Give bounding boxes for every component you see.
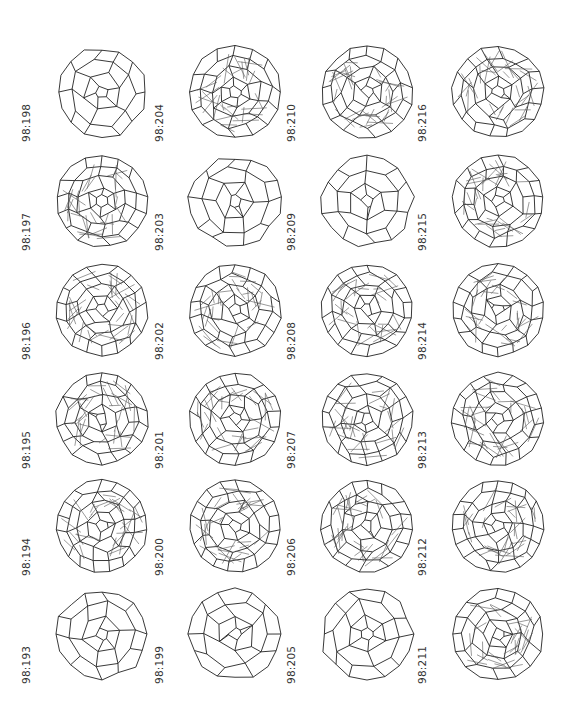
fullerene-cage-diagram [446,260,550,360]
isomer-label: 98:205 [285,646,297,684]
isomer-cell: 98:212 [418,472,548,582]
isomer-label: 98:209 [285,213,297,251]
fullerene-cage-diagram [50,42,154,142]
cage-outline [321,265,412,356]
isomer-cell: 98:216 [418,38,548,148]
isomer-label: 98:211 [416,646,428,684]
cage-outline [56,479,146,572]
isomer-label: 98:199 [153,646,165,684]
fullerene-cage-diagram [183,369,287,469]
cage-outline [452,47,544,137]
fullerene-cage-diagram [315,42,419,142]
isomer-label: 98:206 [285,538,297,576]
isomer-label: 98:214 [416,322,428,360]
isomer-cell: 98:195 [22,365,152,475]
fullerene-cage-diagram [50,369,154,469]
isomer-label: 98:208 [285,322,297,360]
fullerene-cage-diagram [183,42,287,142]
isomer-cell: 98:209 [287,147,417,257]
isomer-label: 98:213 [416,431,428,469]
fullerene-cage-diagram [183,476,287,576]
isomer-cell: 98:210 [287,38,417,148]
cage-outline [321,480,413,572]
fullerene-cage-diagram [315,151,419,251]
isomer-label: 98:197 [20,213,32,251]
isomer-label: 98:198 [20,104,32,142]
fullerene-cage-diagram [315,369,419,469]
isomer-label: 98:201 [153,431,165,469]
fullerene-cage-diagram [50,151,154,251]
isomer-cell: 98:211 [418,580,548,690]
fullerene-cage-diagram [315,260,419,360]
isomer-cell: 98:205 [287,580,417,690]
isomer-cell: 98:196 [22,256,152,366]
isomer-label: 98:196 [20,322,32,360]
fullerene-cage-diagram [446,476,550,576]
isomer-label: 98:207 [285,431,297,469]
fullerene-cage-diagram [183,260,287,360]
isomer-cell: 98:197 [22,147,152,257]
isomer-cell: 98:215 [418,147,548,257]
fullerene-cage-diagram [315,476,419,576]
fullerene-cage-diagram [183,151,287,251]
isomer-label: 98:210 [285,104,297,142]
isomer-label: 98:194 [20,538,32,576]
fullerene-cage-diagram [446,369,550,469]
isomer-label: 98:200 [153,538,165,576]
isomer-label: 98:212 [416,538,428,576]
fullerene-cage-diagram [446,584,550,684]
isomer-cell: 98:208 [287,256,417,366]
isomer-cell: 98:206 [287,472,417,582]
isomer-label: 98:193 [20,646,32,684]
isomer-label: 98:216 [416,104,428,142]
isomer-label: 98:215 [416,213,428,251]
fullerene-cage-diagram [50,476,154,576]
cage-outline [453,588,543,679]
fullerene-cage-diagram [50,260,154,360]
isomer-cell: 98:200 [155,472,285,582]
isomer-cell: 98:213 [418,365,548,475]
cage-outline [452,481,544,572]
isomer-label: 98:195 [20,431,32,469]
fullerene-cage-diagram [183,584,287,684]
isomer-cell: 98:203 [155,147,285,257]
fullerene-cage-diagram [50,584,154,684]
isomer-cell: 98:194 [22,472,152,582]
fullerene-cage-diagram [446,151,550,251]
isomer-label: 98:203 [153,213,165,251]
isomer-label: 98:204 [153,104,165,142]
isomer-cell: 98:207 [287,365,417,475]
isomer-cell: 98:199 [155,580,285,690]
cage-outline [190,373,281,465]
isomer-cell: 98:202 [155,256,285,366]
isomer-cell: 98:201 [155,365,285,475]
fullerene-cage-diagram [446,42,550,142]
isomer-cell: 98:204 [155,38,285,148]
cage-outline [322,46,412,138]
isomer-label: 98:202 [153,322,165,360]
cage-outline [451,372,543,465]
isomer-cell: 98:214 [418,256,548,366]
cage-outline [321,155,415,246]
fullerene-cage-diagram [315,584,419,684]
isomer-cell: 98:193 [22,580,152,690]
isomer-cell: 98:198 [22,38,152,148]
